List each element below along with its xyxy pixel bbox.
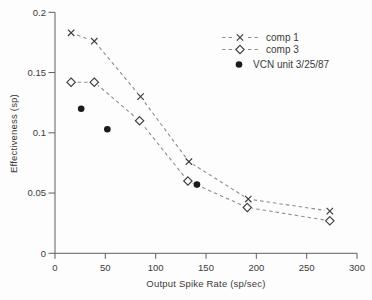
x-tick-label: 200	[248, 262, 264, 273]
x-tick-label: 100	[148, 262, 164, 273]
legend-item-comp-3: comp 3	[222, 44, 299, 55]
y-tick-label: 0.05	[28, 187, 47, 198]
y-tick-label: 0.2	[33, 7, 46, 18]
series-comp-1	[66, 28, 335, 217]
series-comp-3	[66, 77, 335, 226]
x-tick-label: 250	[299, 262, 315, 273]
legend-item-comp-1: comp 1	[222, 32, 299, 43]
y-tick-label: 0.1	[33, 127, 46, 138]
filled-circle-marker	[194, 181, 201, 188]
x-tick-label: 150	[198, 262, 214, 273]
y-tick-label: 0	[41, 248, 46, 259]
filled-circle-marker	[78, 105, 85, 112]
x-axis-label: Output Spike Rate (sp/sec)	[55, 278, 357, 289]
legend-label: comp 1	[266, 32, 299, 43]
figure: 00.050.10.150.2050100150200250300comp 1c…	[0, 0, 372, 300]
legend-label: comp 3	[266, 44, 299, 55]
y-tick-label: 0.15	[28, 67, 47, 78]
x-tick-label: 300	[349, 262, 365, 273]
effectiveness-vs-spike-rate-chart: 00.050.10.150.2050100150200250300comp 1c…	[0, 0, 372, 300]
x-tick-label: 0	[52, 262, 57, 273]
filled-circle-marker	[104, 126, 111, 133]
filled-circle-marker	[236, 61, 243, 68]
series-line	[71, 82, 330, 221]
legend-label: VCN unit 3/25/87	[253, 59, 330, 70]
y-axis-label: Effectiveness (sp)	[8, 89, 19, 179]
x-tick-label: 50	[100, 262, 111, 273]
legend-item-vcn-unit-3-25-87: VCN unit 3/25/87	[236, 59, 330, 70]
